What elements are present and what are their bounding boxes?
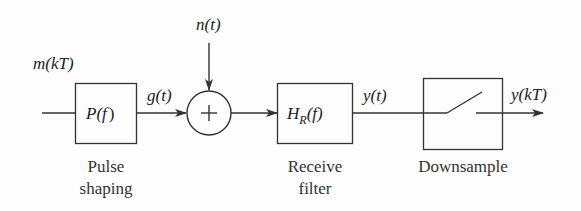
- downsample-caption: Downsample: [418, 157, 508, 176]
- y-signal-label: y(t): [361, 86, 387, 105]
- g-signal-label: g(t): [147, 86, 172, 105]
- pulse-shaping-symbol-close: ): [109, 104, 115, 123]
- input-signal-label: m(kT): [33, 54, 74, 73]
- pulse-shaping-caption-2: shaping: [80, 179, 133, 198]
- pulse-shaping-caption-1: Pulse: [88, 157, 125, 176]
- pulse-shaping-block: P(f): [76, 84, 137, 144]
- receive-filter-block: HR(f): [278, 84, 353, 144]
- pulse-shaping-symbol: P(f): [85, 104, 114, 123]
- switch-icon: [447, 92, 482, 113]
- adder-block: [187, 91, 231, 135]
- downsample-block: [424, 79, 503, 150]
- receive-filter-caption-1: Receive: [288, 157, 343, 176]
- noise-signal-label: n(t): [196, 15, 221, 34]
- receive-filter-symbol: HR(f): [286, 104, 323, 127]
- pulse-shaping-symbol-main: P(: [85, 104, 103, 123]
- receive-filter-caption-2: filter: [298, 179, 331, 198]
- receive-filter-symbol-rest: (f): [307, 104, 323, 123]
- output-signal-label: y(kT): [509, 85, 547, 104]
- block-diagram: m(kT) P(f) Pulse shaping g(t) n(t): [0, 0, 581, 211]
